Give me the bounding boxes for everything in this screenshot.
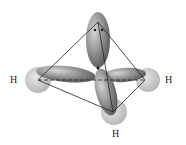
h-label-bottom: H xyxy=(112,128,119,139)
central-atom xyxy=(97,67,100,70)
tetrahedral-orbital-diagram xyxy=(0,0,186,145)
h-label-right: H xyxy=(165,74,172,85)
h-label-left: H xyxy=(10,74,17,85)
lone-pair-lobe xyxy=(86,12,110,68)
